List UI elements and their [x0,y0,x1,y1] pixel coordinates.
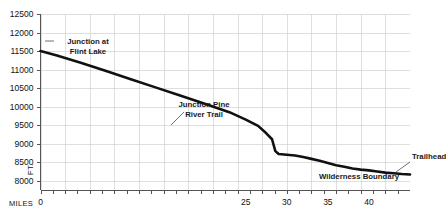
chart-annotations: Junction atFlint LakeJunction PineRiver … [45,37,446,181]
y-axis-unit-label: FT. [26,164,35,175]
chart-canvas: 8000850090009500100001050011000115001200… [0,0,446,216]
annotation-junction-pine-river-trail: Junction PineRiver Trail [178,100,230,119]
y-tick-label: 12500 [10,9,34,19]
y-tick-label: 11500 [10,46,33,56]
annotation-leader-line [171,112,184,125]
elevation-series [41,51,411,174]
annotation-line: Trailhead [412,152,446,161]
annotation-line: Junction at [67,37,109,46]
elevation-profile-line [41,51,411,174]
x-axis-tick-labels: 025303540 [38,197,374,207]
annotation-line: Junction Pine [178,100,230,109]
elevation-profile-chart: 8000850090009500100001050011000115001200… [0,0,446,216]
y-tick-label: 11000 [10,65,33,75]
y-axis-tick-labels: 8000850090009500100001050011000115001200… [10,9,34,186]
y-tick-label: 8000 [15,176,34,186]
x-tick-label: 35 [323,197,333,207]
x-axis-unit-label: MILES [9,199,33,208]
annotation-wilderness-boundary: Wilderness Boundary [319,172,400,181]
y-tick-label: 9000 [15,139,34,149]
annotation-junction-flint-lake: Junction atFlint Lake [67,37,109,56]
annotation-leader-line [396,162,410,172]
x-tick-label: 25 [241,197,251,207]
annotation-trailhead: Trailhead [412,152,446,161]
y-tick-label: 9500 [15,120,34,130]
y-tick-label: 12000 [10,28,34,38]
annotation-line: River Trail [185,110,223,119]
x-tick-label: 30 [282,197,292,207]
y-axis-ticks [37,15,41,182]
y-tick-label: 10000 [10,102,34,112]
y-tick-label: 10500 [10,83,34,93]
x-tick-label: 40 [364,197,374,207]
annotation-line: Flint Lake [70,47,107,56]
x-tick-label: 0 [38,197,43,207]
annotation-line: Wilderness Boundary [319,172,400,181]
